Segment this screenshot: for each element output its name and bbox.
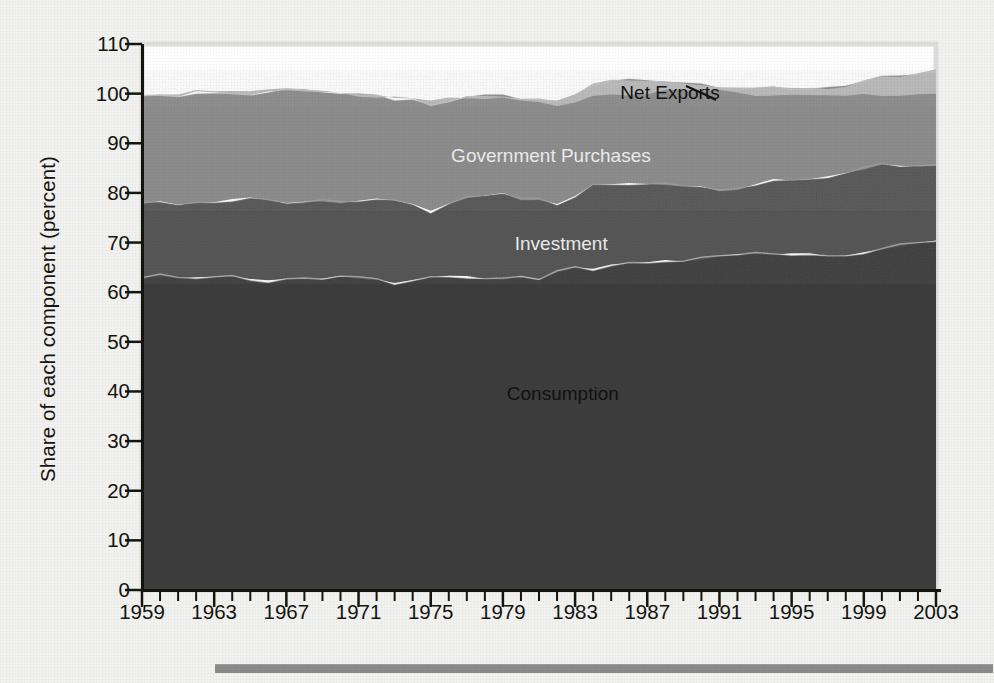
x-axis-ticks (142, 590, 936, 607)
stacked-area-plot (0, 0, 994, 683)
area-bands (142, 69, 936, 590)
area-band-consumption (142, 241, 936, 590)
y-axis-ticks (125, 44, 142, 590)
figure-root: Share of each component (percent) 010203… (0, 0, 994, 683)
